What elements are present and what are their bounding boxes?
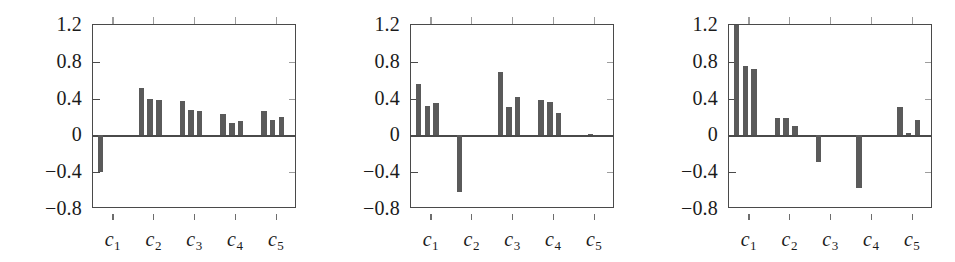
x-tick-label: c4 bbox=[545, 228, 560, 251]
bar bbox=[743, 66, 749, 135]
zero-axis-line bbox=[93, 135, 295, 136]
y-tick-label: −0.4 bbox=[45, 160, 82, 183]
y-tick-label: −0.4 bbox=[681, 160, 718, 183]
y-tick-label: −0.8 bbox=[363, 197, 400, 220]
plot-area bbox=[728, 24, 932, 208]
y-axis: 1.20.80.40−0.4−0.8 bbox=[636, 0, 724, 262]
bar bbox=[906, 133, 912, 136]
y-axis: 1.20.80.40−0.4−0.8 bbox=[0, 0, 88, 262]
plot-area bbox=[92, 24, 296, 208]
x-tick-label-base: c bbox=[741, 228, 750, 250]
x-tick-label-subscript: 2 bbox=[791, 238, 798, 253]
top-tick-mark bbox=[912, 17, 913, 24]
bar bbox=[156, 100, 162, 135]
x-tick-mark bbox=[235, 214, 236, 220]
x-tick-label-subscript: 3 bbox=[514, 238, 521, 253]
x-tick-label-subscript: 5 bbox=[595, 238, 602, 253]
bar bbox=[229, 123, 235, 136]
y-tick-label: 0.4 bbox=[692, 86, 718, 109]
x-tick-mark bbox=[276, 214, 277, 220]
y-tick-label: 0.8 bbox=[56, 49, 82, 72]
x-tick-mark bbox=[153, 214, 154, 220]
plot-area bbox=[410, 24, 614, 208]
x-tick-label-base: c bbox=[463, 228, 472, 250]
top-tick-mark bbox=[153, 17, 154, 24]
y-tick-label: −0.8 bbox=[681, 197, 718, 220]
x-axis: c1c2c3c4c5 bbox=[92, 214, 296, 258]
x-tick-label-base: c bbox=[105, 228, 114, 250]
y-tick-mark-right bbox=[925, 172, 931, 173]
bar bbox=[538, 100, 544, 136]
bar bbox=[197, 111, 203, 135]
x-tick-label-subscript: 3 bbox=[196, 238, 203, 253]
bar bbox=[270, 120, 276, 136]
top-tick-mark bbox=[748, 17, 749, 24]
bar bbox=[416, 84, 422, 136]
bar bbox=[506, 107, 512, 136]
x-tick-mark bbox=[512, 214, 513, 220]
chart-panel: 1.20.80.40−0.4−0.8c1c2c3c4c5 bbox=[636, 0, 954, 262]
zero-axis-line bbox=[729, 135, 931, 136]
x-tick-label: c2 bbox=[145, 228, 160, 251]
zero-axis-line bbox=[411, 135, 613, 136]
y-tick-label: 1.2 bbox=[374, 13, 400, 36]
x-tick-label-base: c bbox=[863, 228, 872, 250]
bar bbox=[238, 121, 244, 136]
bar bbox=[279, 117, 285, 135]
y-axis: 1.20.80.40−0.4−0.8 bbox=[318, 0, 406, 262]
y-tick-mark bbox=[93, 62, 100, 63]
y-tick-mark-right bbox=[607, 99, 613, 100]
bar bbox=[139, 88, 145, 136]
x-tick-label-subscript: 1 bbox=[114, 238, 121, 253]
x-tick-label-subscript: 1 bbox=[750, 238, 757, 253]
x-tick-mark bbox=[112, 214, 113, 220]
top-tick-mark bbox=[594, 17, 595, 24]
x-tick-mark bbox=[430, 214, 431, 220]
top-tick-mark bbox=[830, 17, 831, 24]
y-tick-label: 0 bbox=[708, 123, 718, 146]
y-tick-label: 0 bbox=[72, 123, 82, 146]
top-tick-mark bbox=[276, 17, 277, 24]
top-tick-mark bbox=[235, 17, 236, 24]
x-tick-label-subscript: 2 bbox=[155, 238, 162, 253]
top-tick-mark bbox=[430, 17, 431, 24]
y-tick-mark bbox=[93, 172, 100, 173]
bar bbox=[775, 118, 781, 135]
bar bbox=[425, 106, 431, 135]
top-tick-mark bbox=[789, 17, 790, 24]
top-tick-mark bbox=[471, 17, 472, 24]
top-axis-ticks bbox=[410, 16, 614, 24]
x-tick-label-subscript: 2 bbox=[473, 238, 480, 253]
x-axis: c1c2c3c4c5 bbox=[410, 214, 614, 258]
bar bbox=[556, 113, 562, 135]
bar bbox=[180, 101, 186, 135]
x-tick-label: c1 bbox=[741, 228, 756, 251]
top-tick-mark bbox=[194, 17, 195, 24]
top-tick-mark bbox=[112, 17, 113, 24]
y-tick-mark-right bbox=[289, 99, 295, 100]
bar bbox=[515, 97, 521, 136]
top-tick-mark bbox=[512, 17, 513, 24]
x-tick-label-base: c bbox=[586, 228, 595, 250]
x-tick-label-subscript: 3 bbox=[832, 238, 839, 253]
bar bbox=[457, 135, 463, 192]
bar bbox=[783, 118, 789, 135]
bar bbox=[547, 102, 553, 135]
x-tick-label-base: c bbox=[504, 228, 513, 250]
bar bbox=[897, 107, 903, 136]
bar bbox=[147, 99, 153, 136]
x-tick-label: c1 bbox=[105, 228, 120, 251]
x-tick-label: c4 bbox=[227, 228, 242, 251]
x-tick-label-subscript: 4 bbox=[236, 238, 243, 253]
x-tick-label-subscript: 1 bbox=[432, 238, 439, 253]
x-tick-label: c2 bbox=[463, 228, 478, 251]
x-tick-label-subscript: 4 bbox=[554, 238, 561, 253]
bar bbox=[433, 103, 439, 135]
bar bbox=[816, 135, 822, 162]
x-tick-label: c1 bbox=[423, 228, 438, 251]
x-tick-mark bbox=[471, 214, 472, 220]
y-tick-label: 0.8 bbox=[692, 49, 718, 72]
y-tick-label: −0.4 bbox=[363, 160, 400, 183]
top-tick-mark bbox=[871, 17, 872, 24]
x-tick-label: c4 bbox=[863, 228, 878, 251]
